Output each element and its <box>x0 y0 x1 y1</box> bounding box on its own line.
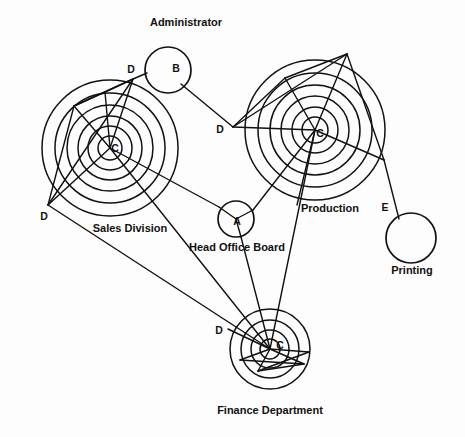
sales-chord-dinner-right <box>74 92 105 106</box>
network-diagram-svg: B A E C C C D D D D Administrator Sales … <box>0 0 465 437</box>
fin-chord-left-rlow <box>240 360 304 364</box>
node-label-d-sales-bottom: D <box>40 210 48 222</box>
diagram-canvas: B A E C C C D D D D Administrator Sales … <box>0 0 465 437</box>
caption-sales-division: Sales Division <box>93 222 168 234</box>
caption-head-office-board: Head Office Board <box>189 241 285 253</box>
prod-spoke-c-right <box>315 130 384 160</box>
node-label-c-sales: C <box>111 142 119 154</box>
cluster-production <box>233 54 385 205</box>
caption-finance-department: Finance Department <box>217 404 323 416</box>
caption-printing: Printing <box>391 264 433 276</box>
node-label-d-sales-top: D <box>127 63 135 75</box>
node-label-e: E <box>381 201 388 213</box>
node-label-a: A <box>233 215 241 227</box>
sales-chord-dinner-dbot <box>48 106 74 205</box>
prod-spoke-c-dtop <box>315 54 347 130</box>
node-label-d-production: D <box>216 123 224 135</box>
node-label-d-finance: D <box>215 324 223 336</box>
link-sales-d-to-administrator <box>133 73 147 79</box>
caption-administrator: Administrator <box>150 16 223 28</box>
caption-production: Production <box>301 202 359 214</box>
node-label-c-finance: C <box>276 339 284 351</box>
fin-spoke-c-d <box>228 329 270 349</box>
node-e-printing[interactable] <box>386 213 436 263</box>
node-label-b: B <box>172 62 180 74</box>
link-administrator-to-prod-d <box>181 84 233 127</box>
prod-chord-dtop-right <box>347 54 384 160</box>
node-label-c-production: C <box>316 127 324 139</box>
